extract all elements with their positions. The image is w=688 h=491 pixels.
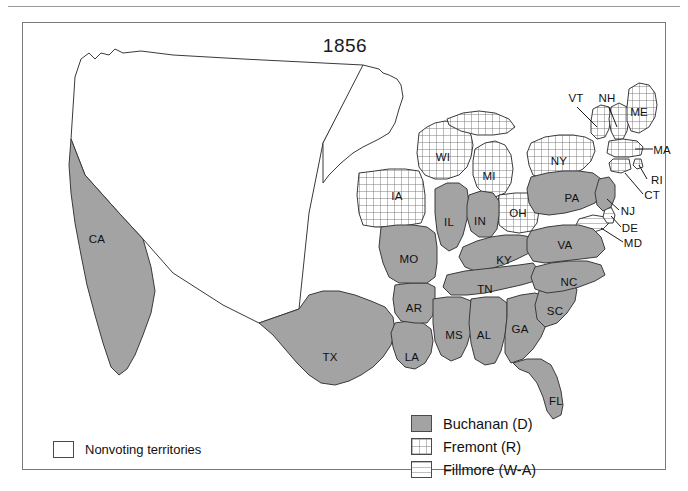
state-label-MD: MD bbox=[624, 237, 642, 249]
state-label-MA: MA bbox=[653, 144, 671, 156]
state-CT bbox=[609, 159, 631, 173]
legend-parties: Buchanan (D) Fremont (R) Fillmore (W-A) bbox=[411, 415, 536, 478]
state-label-TX: TX bbox=[322, 351, 337, 363]
buchanan-swatch bbox=[411, 415, 432, 432]
state-label-NC: NC bbox=[560, 276, 577, 288]
fillmore-label: Fillmore (W-A) bbox=[443, 462, 536, 478]
top-divider bbox=[8, 6, 680, 7]
state-label-SC: SC bbox=[547, 305, 563, 317]
state-label-CT: CT bbox=[644, 189, 660, 201]
state-label-OH: OH bbox=[509, 207, 527, 219]
legend-row-fremont: Fremont (R) bbox=[411, 438, 536, 455]
state-label-VT: VT bbox=[568, 92, 583, 104]
state-label-IN: IN bbox=[474, 215, 486, 227]
state-VT bbox=[591, 105, 611, 139]
state-FL bbox=[513, 359, 563, 419]
state-label-PA: PA bbox=[565, 192, 580, 204]
fillmore-swatch bbox=[411, 461, 432, 478]
state-label-AR: AR bbox=[406, 302, 422, 314]
legend-row-fillmore: Fillmore (W-A) bbox=[411, 461, 536, 478]
state-RI bbox=[633, 159, 643, 169]
state-label-NJ: NJ bbox=[621, 205, 635, 217]
state-label-FL: FL bbox=[549, 395, 563, 407]
state-IN bbox=[467, 191, 499, 237]
state-label-DE: DE bbox=[622, 222, 638, 234]
state-MA bbox=[607, 139, 643, 157]
state-label-NH: NH bbox=[598, 92, 615, 104]
state-label-TN: TN bbox=[477, 283, 493, 295]
map-frame: 1856 bbox=[22, 22, 666, 470]
state-MI bbox=[473, 141, 513, 197]
state-label-NY: NY bbox=[551, 155, 567, 167]
state-label-RI: RI bbox=[651, 174, 663, 186]
state-label-AL: AL bbox=[477, 329, 491, 341]
legend-row-buchanan: Buchanan (D) bbox=[411, 415, 536, 432]
fremont-label: Fremont (R) bbox=[443, 439, 521, 455]
state-label-MO: MO bbox=[400, 253, 419, 265]
state-label-IL: IL bbox=[444, 216, 454, 228]
state-NH bbox=[609, 103, 629, 139]
nonvoting-swatch bbox=[53, 441, 74, 458]
state-label-MI: MI bbox=[482, 170, 495, 182]
state-label-LA: LA bbox=[405, 351, 419, 363]
buchanan-label: Buchanan (D) bbox=[443, 416, 532, 432]
nonvoting-label: Nonvoting territories bbox=[85, 442, 201, 457]
state-NJ bbox=[595, 177, 615, 211]
state-label-MS: MS bbox=[445, 329, 463, 341]
state-label-KY: KY bbox=[496, 254, 512, 266]
state-label-VA: VA bbox=[558, 239, 573, 251]
state-label-CA: CA bbox=[89, 233, 105, 245]
legend-nonvoting-territories: Nonvoting territories bbox=[53, 441, 201, 458]
state-label-WI: WI bbox=[436, 151, 450, 163]
fremont-swatch bbox=[411, 438, 432, 455]
state-label-IA: IA bbox=[391, 190, 402, 202]
state-label-ME: ME bbox=[630, 106, 648, 118]
state-label-GA: GA bbox=[511, 323, 528, 335]
